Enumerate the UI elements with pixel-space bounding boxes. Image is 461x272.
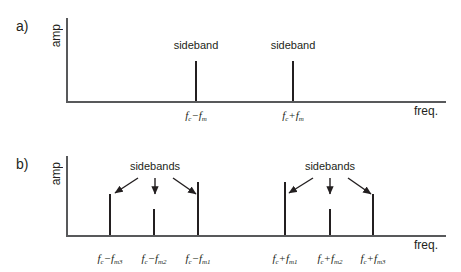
tick-sub-2: m1 bbox=[202, 258, 211, 266]
tick-operator: + bbox=[324, 252, 331, 264]
panel-a-annotation-upper: sideband bbox=[253, 39, 333, 51]
tick-sub-1: c bbox=[101, 258, 104, 266]
tick-sub-1: c bbox=[189, 258, 192, 266]
panel-b-tick-label-upper-3: fc+fm3 bbox=[338, 252, 408, 264]
panel-a-spike-upper-bar bbox=[292, 61, 294, 101]
tick-sub-1: c bbox=[276, 258, 279, 266]
panel-a-tick-label-lower: fc−fm bbox=[156, 109, 236, 121]
tick-operator: + bbox=[279, 252, 286, 264]
tick-operator: − bbox=[191, 109, 198, 121]
panel-b-spike-upper-3-bar bbox=[372, 194, 374, 235]
tick-sub-2: m bbox=[202, 115, 207, 123]
panel-b: b) amp freq. sidebands sidebands bbox=[0, 136, 461, 272]
panel-b-spike-upper-2-bar bbox=[329, 209, 331, 235]
tick-sub-1: c bbox=[364, 258, 367, 266]
figure-root: a) amp freq. sideband sideband fc−fm fc+… bbox=[0, 0, 461, 272]
tick-operator: + bbox=[367, 252, 374, 264]
panel-b-tick-label-lower-1: fc−fm1 bbox=[163, 252, 233, 264]
panel-b-spike-lower-2-bar bbox=[153, 209, 155, 235]
panel-b-spike-lower-1-bar bbox=[197, 182, 199, 235]
panel-a-label: a) bbox=[16, 18, 28, 34]
panel-b-spike-lower-3-bar bbox=[109, 194, 111, 235]
arrow-upper-1 bbox=[289, 178, 313, 193]
panel-a-tick-label-upper: fc+fm bbox=[253, 109, 333, 121]
tick-sub-1: c bbox=[285, 115, 288, 123]
tick-operator: − bbox=[148, 252, 155, 264]
tick-sub-1: c bbox=[145, 258, 148, 266]
arrow-lower-1 bbox=[173, 178, 196, 194]
tick-sub-1: c bbox=[321, 258, 324, 266]
tick-operator: − bbox=[104, 252, 111, 264]
panel-a: a) amp freq. sideband sideband fc−fm fc+… bbox=[0, 0, 461, 136]
tick-sub-2: m3 bbox=[377, 258, 386, 266]
tick-sub-1: c bbox=[188, 115, 191, 123]
panel-b-spike-upper-1-bar bbox=[284, 182, 286, 235]
panel-a-spike-lower-bar bbox=[195, 61, 197, 101]
panel-a-x-axis-line bbox=[66, 101, 446, 103]
panel-a-annotation-lower: sideband bbox=[156, 39, 236, 51]
panel-a-x-axis-label: freq. bbox=[414, 104, 438, 118]
panel-a-y-axis-label: amp bbox=[49, 24, 63, 47]
tick-sub-2: m bbox=[299, 115, 304, 123]
arrow-upper-3 bbox=[348, 178, 371, 194]
panel-a-y-axis-line bbox=[66, 18, 68, 102]
arrow-lower-3 bbox=[115, 178, 138, 193]
tick-operator: + bbox=[288, 109, 295, 121]
tick-operator: − bbox=[192, 252, 199, 264]
